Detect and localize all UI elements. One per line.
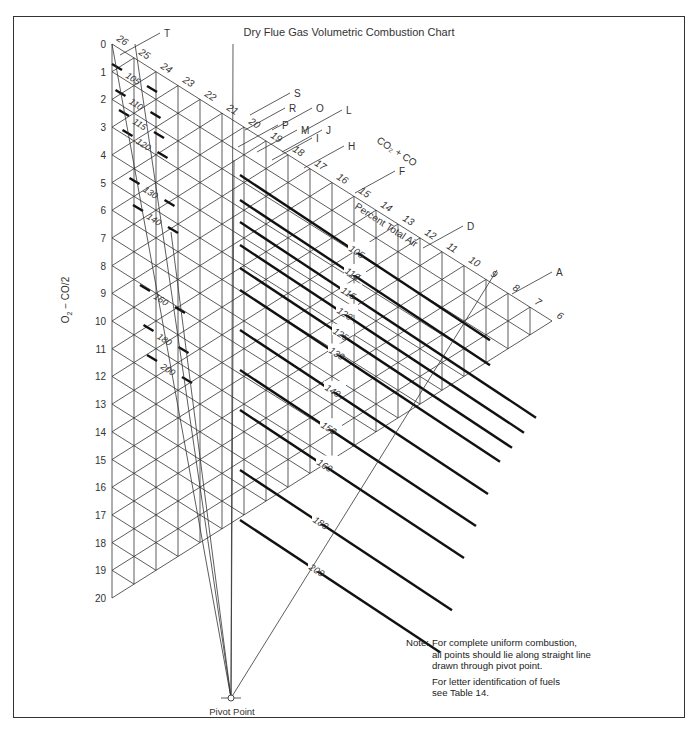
o2-tick-label: 7: [100, 233, 106, 244]
o2-tick-label: 0: [100, 39, 106, 50]
o2-tick-label: 12: [95, 371, 107, 382]
co2-tick-label: 25: [136, 46, 153, 62]
co2-tick-label: 14: [379, 199, 395, 215]
o2-tick-label: 20: [95, 593, 107, 604]
fuel-letter: O: [316, 103, 324, 114]
o2-tick-label: 5: [100, 178, 106, 189]
fuel-letter: S: [294, 88, 301, 99]
o2-tick-label: 9: [100, 288, 106, 299]
o2-tick-label: 11: [96, 344, 107, 355]
strip-air-value: 200: [158, 361, 177, 378]
note-line: see Table 14.: [432, 687, 489, 699]
co2-tick-label: 16: [335, 171, 351, 187]
fuel-letter: T: [164, 28, 170, 39]
note-line: drawn through pivot point.: [432, 660, 542, 672]
co2-tick-label: 20: [246, 115, 263, 131]
o2-tick-label: 16: [95, 482, 107, 493]
o2-tick-label: 15: [95, 455, 107, 466]
co2-tick-label: 22: [202, 87, 219, 103]
note-label: Note:: [406, 637, 432, 649]
fuel-letter-markers: TSROPLMIJHFDA: [120, 28, 563, 294]
co2-tick-label: 8: [511, 282, 522, 294]
fuel-letter: L: [346, 105, 352, 116]
o2-tick-label: 8: [100, 261, 106, 272]
fuel-letter: R: [289, 103, 296, 114]
o2-tick-label: 6: [100, 205, 106, 216]
co2-tick-label: 21: [224, 101, 240, 117]
strip-air-value: 110: [127, 96, 144, 112]
fuel-letter: A: [556, 267, 563, 278]
fuel-letter: P: [282, 120, 289, 131]
x-axis-label: CO₂ + CO: [375, 134, 419, 168]
o2-tick-label: 10: [95, 316, 107, 327]
combustion-nomogram: 0123456789101112131415161718192026252423…: [0, 0, 698, 730]
co2-tick-label: 17: [313, 157, 329, 173]
o2-tick-label: 17: [95, 510, 107, 521]
fuel-letter: J: [326, 125, 331, 136]
co2-tick-label: 23: [180, 73, 197, 89]
fuel-letter: H: [348, 141, 355, 152]
o2-tick-label: 4: [100, 150, 106, 161]
o2-tick-label: 3: [100, 122, 106, 133]
co2-tick-label: 24: [158, 60, 175, 76]
strip-air-value: 160: [152, 291, 170, 308]
fuel-letter: I: [316, 133, 319, 144]
pivot-point-marker: [228, 695, 234, 701]
fuel-letter: F: [399, 166, 405, 177]
note-line: For complete uniform combustion,: [432, 637, 577, 649]
y-axis-label: O2 − CO/2: [60, 270, 80, 330]
note-line: For letter identification of fuels: [432, 676, 560, 688]
fuel-letter: D: [467, 221, 474, 232]
co2-tick-label: 26: [114, 32, 131, 48]
note-block: Note:For complete uniform combustion, al…: [406, 637, 591, 699]
o2-tick-label: 14: [95, 427, 107, 438]
fuel-letter: M: [301, 125, 309, 136]
o2-tick-label: 19: [95, 565, 107, 576]
percent-air-lines: [240, 175, 536, 652]
co2-tick-label: 12: [423, 226, 439, 242]
o2-tick-label: 1: [100, 67, 106, 78]
co2-tick-label: 13: [401, 213, 417, 229]
co2-tick-label: 15: [357, 185, 373, 201]
co2-tick-label: 7: [533, 296, 544, 308]
co2-tick-label: 11: [445, 240, 460, 255]
pivot-point-label: Pivot Point: [200, 706, 264, 717]
note-line: all points should lie along straight lin…: [432, 649, 591, 661]
o2-tick-label: 18: [95, 538, 107, 549]
o2-tick-label: 13: [95, 399, 107, 410]
co2-tick-label: 19: [269, 129, 285, 145]
co2-tick-label: 10: [467, 254, 483, 270]
o2-tick-label: 2: [100, 94, 106, 105]
co2-tick-label: 6: [555, 309, 566, 321]
